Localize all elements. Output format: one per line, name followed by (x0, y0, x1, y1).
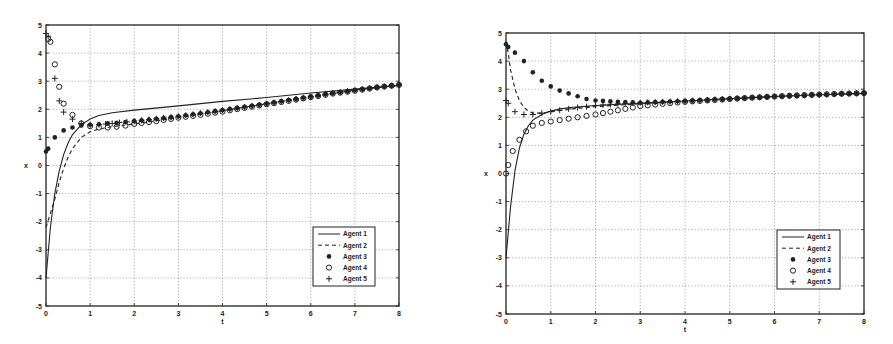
y-tick-label: -2 (36, 218, 42, 225)
data-point (531, 70, 536, 75)
x-tick-label: 6 (773, 318, 777, 325)
x-tick-label: 3 (638, 318, 642, 325)
legend-label: Agent 5 (343, 275, 367, 283)
legend: Agent 1Agent 2Agent 3Agent 4Agent 5 (777, 230, 840, 289)
x-tick-label: 5 (728, 318, 732, 325)
legend-label: Agent 1 (807, 233, 831, 241)
data-point (57, 84, 62, 89)
y-tick-label: -1 (36, 190, 42, 197)
series-agent-4 (46, 36, 402, 130)
x-tick-label: 0 (504, 318, 508, 325)
y-tick-label: -5 (496, 311, 502, 318)
data-point (506, 45, 511, 50)
data-point (70, 125, 75, 130)
data-point (521, 111, 527, 117)
y-tick-label: 3 (38, 78, 42, 85)
data-point (52, 75, 58, 81)
x-tick-label: 4 (683, 318, 687, 325)
x-tick-label: 4 (221, 310, 225, 317)
y-tick-label: -1 (496, 198, 502, 205)
legend-label: Agent 3 (343, 253, 367, 261)
y-tick-label: 0 (38, 162, 42, 169)
legend-label: Agent 3 (807, 256, 831, 264)
legend-label: Agent 2 (807, 245, 831, 253)
x-tick-label: 8 (397, 310, 401, 317)
y-tick-label: -3 (36, 246, 42, 253)
y-axis-label: x (484, 170, 488, 177)
data-point (53, 135, 58, 140)
y-axis-label: x (24, 162, 28, 169)
data-point (575, 94, 580, 99)
x-tick-label: 6 (309, 310, 313, 317)
y-tick-label: -2 (496, 226, 502, 233)
legend-label: Agent 2 (343, 242, 367, 250)
x-axis-label: t (684, 326, 687, 333)
x-tick-label: 0 (44, 310, 48, 317)
data-point (557, 118, 562, 123)
x-tick-label: 1 (88, 310, 92, 317)
data-point (548, 84, 553, 89)
data-point (61, 128, 66, 133)
y-tick-label: -3 (496, 254, 502, 261)
x-tick-label: 2 (132, 310, 136, 317)
legend-marker (327, 254, 332, 259)
y-tick-label: 2 (498, 114, 502, 121)
data-point (584, 97, 589, 102)
data-point (52, 62, 57, 67)
x-tick-label: 3 (176, 310, 180, 317)
x-tick-label: 7 (353, 310, 357, 317)
x-axis-label: t (221, 318, 224, 325)
data-point (600, 110, 605, 115)
data-point (593, 102, 599, 108)
data-point (539, 120, 544, 125)
data-point (548, 109, 554, 115)
data-point (566, 106, 572, 112)
legend-label: Agent 5 (807, 278, 831, 286)
data-point (608, 109, 613, 114)
figure-canvas: 012345678-5-4-3-2-1012345txAgent 1Agent … (0, 0, 893, 344)
data-point (61, 109, 67, 115)
legend-label: Agent 1 (343, 230, 367, 238)
data-point (593, 98, 598, 103)
x-tick-label: 2 (594, 318, 598, 325)
data-point (510, 148, 515, 153)
x-tick-label: 1 (549, 318, 553, 325)
legend-label: Agent 4 (343, 264, 367, 272)
data-point (623, 106, 628, 111)
y-tick-label: -4 (36, 274, 42, 281)
data-point (600, 102, 606, 108)
y-tick-label: 0 (498, 170, 502, 177)
data-point (566, 116, 571, 121)
chart-right: 012345678-5-4-3-2-1012345txAgent 1Agent … (484, 30, 867, 334)
data-point (517, 137, 522, 142)
y-tick-label: 2 (38, 106, 42, 113)
data-point (512, 109, 518, 115)
y-tick-label: 4 (498, 58, 502, 65)
legend-marker (791, 257, 796, 262)
y-tick-label: 5 (38, 22, 42, 29)
data-point (530, 123, 535, 128)
data-point (557, 88, 562, 93)
data-point (513, 50, 518, 55)
data-point (46, 146, 51, 151)
x-tick-label: 7 (817, 318, 821, 325)
data-point (540, 78, 545, 83)
y-tick-label: -5 (36, 303, 42, 310)
y-tick-label: 1 (498, 142, 502, 149)
chart-left: 012345678-5-4-3-2-1012345txAgent 1Agent … (24, 22, 402, 326)
legend-label: Agent 4 (807, 267, 831, 275)
y-tick-label: 3 (498, 86, 502, 93)
y-tick-label: 4 (38, 50, 42, 57)
data-point (584, 113, 589, 118)
y-tick-label: -4 (496, 282, 502, 289)
data-point (575, 104, 581, 110)
data-point (615, 108, 620, 113)
legend: Agent 1Agent 2Agent 3Agent 4Agent 5 (313, 227, 375, 286)
x-tick-label: 8 (862, 318, 866, 325)
y-tick-label: 1 (38, 134, 42, 141)
data-point (566, 91, 571, 96)
data-point (522, 59, 527, 64)
data-point (61, 101, 66, 106)
data-point (584, 104, 590, 110)
x-tick-label: 5 (265, 310, 269, 317)
